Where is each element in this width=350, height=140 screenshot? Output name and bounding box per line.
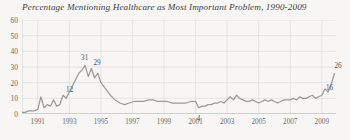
- y-axis-tick-label: 50: [0, 31, 18, 40]
- chart-title: Percentage Mentioning Healthcare as Most…: [22, 2, 307, 12]
- x-axis-tick-label: 2009: [307, 118, 337, 126]
- x-axis-tick-label: 2001: [181, 118, 211, 126]
- chart-container: Percentage Mentioning Healthcare as Most…: [0, 0, 350, 140]
- data-point-annotation: 4: [197, 115, 201, 123]
- data-point-annotation: 26: [334, 62, 341, 70]
- x-axis-tick-label: 1991: [23, 118, 53, 126]
- y-axis-tick-label: 40: [0, 47, 18, 56]
- data-point-annotation: 16: [326, 84, 333, 92]
- x-axis-tick-label: 2003: [212, 118, 242, 126]
- plot-area: [22, 20, 336, 114]
- x-axis-tick-label: 1999: [149, 118, 179, 126]
- y-axis-tick-label: 30: [0, 63, 18, 72]
- x-axis-tick-label: 2005: [244, 118, 274, 126]
- x-axis-tick-label: 1997: [117, 118, 147, 126]
- x-axis-tick-label: 1995: [86, 118, 116, 126]
- x-axis-tick-label: 2007: [275, 118, 305, 126]
- data-point-annotation: 31: [81, 54, 88, 62]
- y-axis-tick-label: 0: [0, 110, 18, 119]
- y-axis-tick-label: 60: [0, 16, 18, 25]
- data-point-annotation: 29: [93, 59, 100, 67]
- data-point-annotation: 12: [66, 86, 73, 94]
- x-axis-tick-label: 1993: [54, 118, 84, 126]
- chart-svg: [22, 20, 336, 114]
- y-axis-tick-label: 10: [0, 94, 18, 103]
- y-axis-tick-label: 20: [0, 78, 18, 87]
